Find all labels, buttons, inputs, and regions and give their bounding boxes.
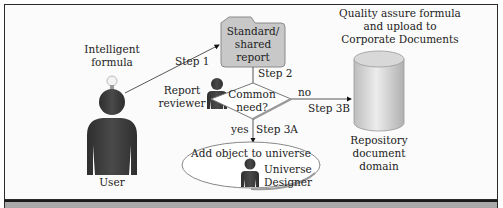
bottom-band — [4, 200, 498, 208]
common-need-decision: Common need? — [211, 83, 291, 119]
repository-label: Repository document domain — [350, 134, 407, 172]
user-label: User — [99, 176, 125, 188]
diagram-frame: Intelligent formula User Step 1 Standard… — [4, 4, 498, 200]
user-icon — [87, 89, 137, 175]
svg-text:reviewer: reviewer — [159, 97, 207, 109]
step3a-label: Step 3A — [256, 123, 298, 135]
svg-text:Universe: Universe — [264, 163, 312, 175]
universe-designer-label: Universe Designer — [264, 163, 313, 188]
step2-label: Step 2 — [258, 67, 292, 79]
svg-text:Quality assure formula: Quality assure formula — [339, 7, 461, 19]
svg-text:Report: Report — [164, 84, 201, 96]
intelligent-formula-label: Intelligent formula — [84, 43, 140, 68]
report-reviewer-label: Report reviewer — [159, 84, 207, 109]
repository-cylinder-icon — [354, 51, 404, 131]
shared-report-document: Standard/ shared report — [221, 17, 285, 67]
svg-text:Intelligent: Intelligent — [84, 43, 140, 55]
step3b-label: Step 3B — [308, 102, 350, 114]
svg-text:shared: shared — [235, 38, 272, 50]
svg-text:and upload to: and upload to — [363, 20, 436, 32]
svg-text:formula: formula — [91, 56, 133, 68]
svg-text:Designer: Designer — [264, 176, 313, 188]
svg-text:Common: Common — [228, 88, 276, 100]
svg-text:report: report — [236, 51, 270, 63]
step1-label: Step 1 — [175, 55, 209, 67]
svg-text:need?: need? — [236, 101, 268, 113]
svg-text:Standard/: Standard/ — [227, 25, 280, 37]
yes-label: yes — [230, 123, 249, 135]
no-label: no — [298, 86, 311, 98]
svg-text:document: document — [353, 147, 407, 159]
lightbulb-icon — [107, 76, 117, 90]
quality-assure-note: Quality assure formula and upload to Cor… — [339, 7, 461, 45]
svg-text:Repository: Repository — [350, 134, 407, 146]
svg-text:Corporate Documents: Corporate Documents — [341, 33, 458, 45]
svg-text:Add object to universe: Add object to universe — [190, 147, 311, 159]
svg-text:domain: domain — [359, 160, 399, 172]
